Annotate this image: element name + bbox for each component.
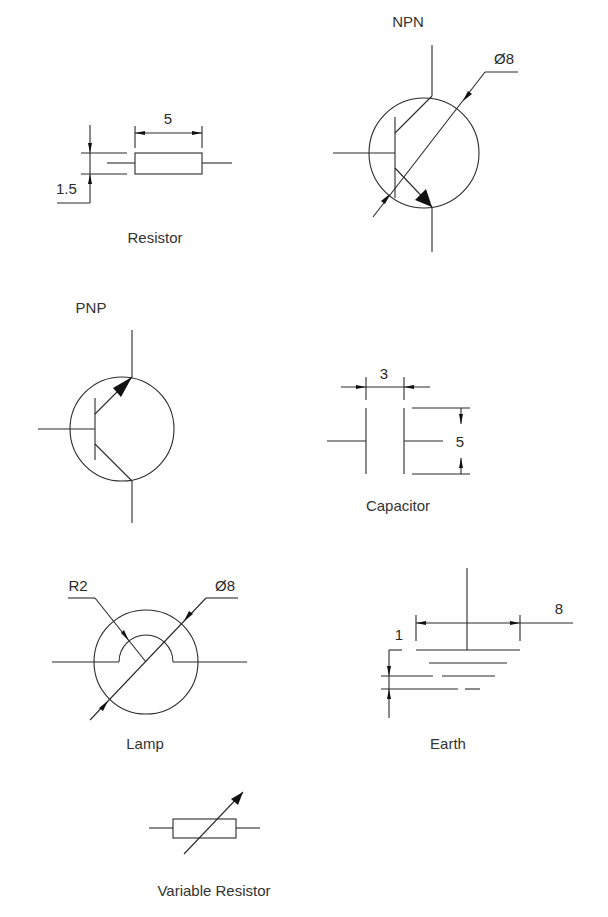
- earth-spacing-dimension: [387, 650, 402, 718]
- pnp-collector: [95, 444, 132, 481]
- pnp-label: PNP: [76, 299, 107, 316]
- lamp-diameter-value: Ø8: [215, 577, 235, 594]
- capacitor-symbol: 3 5 Capacitor: [327, 365, 470, 514]
- npn-transistor-symbol: NPN Ø8: [333, 13, 518, 252]
- npn-label: NPN: [392, 13, 424, 30]
- pnp-emitter-arrow: [113, 377, 132, 397]
- lamp-label: Lamp: [126, 735, 164, 752]
- lamp-radius-dimension: [68, 598, 146, 662]
- capacitor-height-value: 5: [456, 433, 464, 450]
- capacitor-gap-value: 3: [380, 365, 388, 382]
- resistor-label: Resistor: [127, 229, 182, 246]
- earth-width-dimension: [416, 615, 573, 641]
- earth-symbol: 8 1 Earth: [381, 568, 573, 752]
- variable-resistor-body: [173, 819, 236, 838]
- lamp-symbol: R2 Ø8 Lamp: [52, 577, 247, 752]
- resistor-length-value: 5: [164, 110, 172, 127]
- pnp-transistor-symbol: PNP: [38, 299, 174, 523]
- resistor-height-value: 1.5: [56, 180, 77, 197]
- earth-spacing-value: 1: [395, 626, 403, 643]
- lamp-radius-value: R2: [68, 577, 87, 594]
- resistor-body: [135, 153, 202, 174]
- variable-resistor-symbol: Variable Resistor: [149, 792, 271, 899]
- resistor-symbol: 5 1.5 Resistor: [56, 110, 232, 246]
- earth-width-value: 8: [555, 600, 563, 617]
- resistor-length-dimension: [135, 126, 202, 148]
- variable-resistor-label: Variable Resistor: [157, 882, 270, 899]
- npn-diameter-value: Ø8: [494, 50, 514, 67]
- earth-label: Earth: [430, 735, 466, 752]
- diagram-canvas: 5 1.5 Resistor NPN Ø8: [0, 0, 608, 917]
- capacitor-label: Capacitor: [366, 497, 430, 514]
- npn-collector: [395, 96, 432, 133]
